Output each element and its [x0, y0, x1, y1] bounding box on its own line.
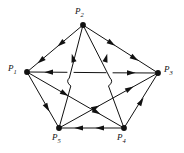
vertex-label-p2-sub: 2 — [81, 11, 84, 18]
vertex-label-p2: P2 — [75, 7, 84, 18]
vertex-dot-p1 — [24, 69, 30, 75]
vertex-dot-p2 — [80, 22, 86, 28]
arrowhead-p4-p5-b — [74, 125, 83, 130]
vertex-label-p4-sub: 4 — [123, 137, 126, 144]
vertex-dot-p3 — [155, 70, 161, 76]
vertex-label-p1: P1 — [8, 64, 17, 75]
arrowhead-horizontal-to-p1 — [44, 70, 53, 75]
arrowhead-p2-p3-a — [107, 39, 117, 48]
arrowhead-p4-p5-a — [95, 125, 104, 130]
vertex-layer — [24, 22, 161, 131]
edge-p5-p3 — [59, 73, 158, 128]
directed-graph-figure: P1 P2 P3 P4 P5 — [0, 0, 184, 153]
vertex-dot-p5 — [56, 125, 62, 131]
vertex-label-p1-sub: 1 — [14, 68, 17, 75]
arrowhead-horizontal-to-p3 — [127, 70, 136, 75]
vertex-label-p5: P5 — [52, 133, 61, 144]
edge-layer — [27, 25, 158, 128]
vertex-label-p5-sub: 5 — [58, 137, 61, 144]
edge-p4-p2 — [83, 25, 124, 128]
vertex-dot-p4 — [121, 125, 127, 131]
vertex-label-p3: P3 — [164, 65, 173, 76]
vertex-label-p3-sub: 3 — [170, 69, 173, 76]
edge-p1-p5 — [27, 72, 59, 128]
edge-p2-p3 — [83, 25, 158, 73]
arrowhead-p1-p5 — [43, 103, 52, 113]
arrowhead-p2-p3-b — [130, 54, 140, 63]
vertex-label-p4: P4 — [117, 133, 126, 144]
graph-canvas — [0, 0, 184, 153]
arrowhead-p5-p3-b — [125, 84, 135, 93]
arrowhead-p4-p2 — [102, 53, 109, 63]
edge-p2-p1 — [27, 25, 83, 72]
